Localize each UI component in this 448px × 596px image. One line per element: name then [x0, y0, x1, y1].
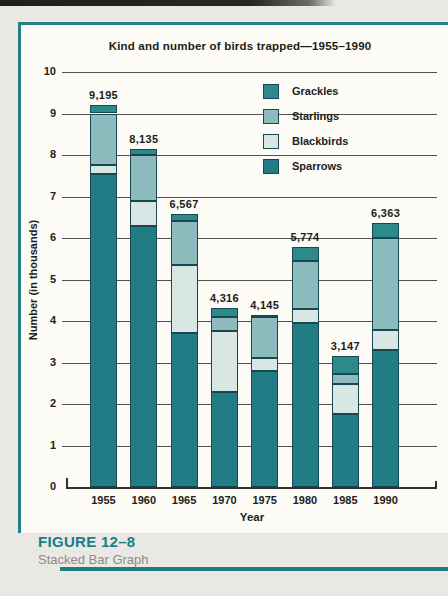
legend-label-sparrows: Sparrows [292, 160, 342, 172]
bar-1990-sparrows-segment [372, 350, 399, 487]
bar-1975-sparrows-segment [251, 371, 278, 487]
bar-1985-grackles-segment [332, 356, 359, 374]
gridline-10 [62, 72, 437, 73]
bar-1975-blackbirds-segment [251, 358, 278, 370]
legend-swatch-sparrows [263, 159, 279, 174]
bar-1955-total-label: 9,195 [74, 89, 134, 101]
gridline-8 [62, 155, 437, 156]
bar-1975-grackles-segment [251, 315, 278, 317]
bar-1960-starlings-segment [130, 155, 157, 201]
legend-swatch-starlings [263, 109, 279, 124]
y-axis-tick-label-4: 4 [20, 314, 56, 326]
x-axis-label-1960: 1960 [122, 494, 166, 506]
x-axis-label-1975: 1975 [243, 494, 287, 506]
x-axis-right-stub [435, 481, 437, 487]
bar-1960-sparrows-segment [130, 226, 157, 487]
gridline-9 [62, 114, 437, 115]
bar-1975-starlings-segment [251, 317, 278, 359]
bar-1960-total-label: 8,135 [114, 133, 174, 145]
bar-1980-blackbirds-segment [292, 309, 319, 324]
x-axis-label-1955: 1955 [82, 494, 126, 506]
gridline-7 [62, 197, 437, 198]
bar-1970-blackbirds-segment [211, 331, 238, 391]
x-axis-label-1970: 1970 [202, 494, 246, 506]
y-axis-tick-label-2: 2 [20, 397, 56, 409]
bar-1985-sparrows-segment [332, 414, 359, 487]
bar-1965-total-label: 6,567 [154, 198, 214, 210]
x-axis-left-stub [66, 478, 68, 487]
bar-1975-total-label: 4,145 [235, 299, 295, 311]
x-axis-label-1985: 1985 [323, 494, 367, 506]
bar-1990-blackbirds-segment [372, 330, 399, 350]
legend-label-grackles: Grackles [292, 85, 338, 97]
y-axis-tick-label-0: 0 [20, 480, 56, 492]
x-axis-label-1980: 1980 [283, 494, 327, 506]
x-axis-line [66, 487, 437, 489]
y-axis-tick-label-10: 10 [20, 65, 56, 77]
bar-1985-blackbirds-segment [332, 384, 359, 414]
y-axis-tick-label-9: 9 [20, 107, 56, 119]
bar-1955-blackbirds-segment [90, 165, 117, 173]
bar-1985-total-label: 3,147 [315, 340, 375, 352]
bar-1990-total-label: 6,363 [356, 207, 416, 219]
bar-1980-total-label: 5,774 [275, 231, 335, 243]
y-axis-tick-label-6: 6 [20, 231, 56, 243]
bar-1955-sparrows-segment [90, 174, 117, 487]
x-axis-label-1965: 1965 [162, 494, 206, 506]
x-axis-title: Year [222, 511, 282, 523]
bar-1990-grackles-segment [372, 223, 399, 238]
bar-1960-grackles-segment [130, 149, 157, 155]
bar-1980-starlings-segment [292, 261, 319, 309]
legend-label-blackbirds: Blackbirds [292, 135, 348, 147]
bar-1965-grackles-segment [171, 214, 198, 221]
bar-1990-starlings-segment [372, 238, 399, 330]
bar-1970-sparrows-segment [211, 392, 238, 487]
scanned-textbook-figure: Kind and number of birds trapped—1955–19… [0, 0, 448, 596]
y-axis-tick-label-1: 1 [20, 439, 56, 451]
y-axis-tick-label-5: 5 [20, 273, 56, 285]
bar-1980-grackles-segment [292, 247, 319, 260]
y-axis-tick-label-3: 3 [20, 356, 56, 368]
y-axis-tick-label-7: 7 [20, 190, 56, 202]
figure-number-label: FIGURE 12–8 [38, 533, 136, 550]
legend-swatch-grackles [263, 84, 279, 99]
bar-1955-grackles-segment [90, 105, 117, 113]
bar-1985-starlings-segment [332, 374, 359, 384]
x-axis-label-1990: 1990 [364, 494, 408, 506]
chart-title: Kind and number of birds trapped—1955–19… [40, 40, 440, 52]
figure-caption: Stacked Bar Graph [38, 552, 149, 567]
bar-1970-starlings-segment [211, 317, 238, 332]
section-divider-rule [60, 567, 448, 571]
legend-swatch-blackbirds [263, 134, 279, 149]
y-axis-tick-label-8: 8 [20, 148, 56, 160]
legend-label-starlings: Starlings [292, 110, 339, 122]
scan-edge-strip [0, 0, 336, 6]
bar-1965-starlings-segment [171, 221, 198, 265]
bar-1965-sparrows-segment [171, 333, 198, 487]
